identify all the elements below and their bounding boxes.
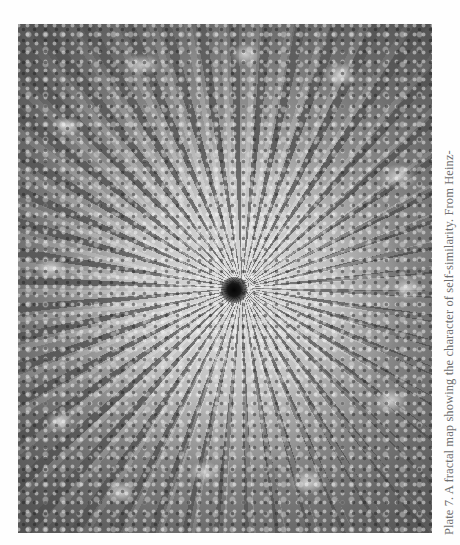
spiral-center-point [221,277,247,303]
fractal-plate-image [18,24,432,533]
book-page: Plate 7. A fractal map showing the chara… [0,0,460,545]
plate-caption: Plate 7. A fractal map showing the chara… [441,65,457,535]
fractal-speckle-texture [18,24,432,533]
